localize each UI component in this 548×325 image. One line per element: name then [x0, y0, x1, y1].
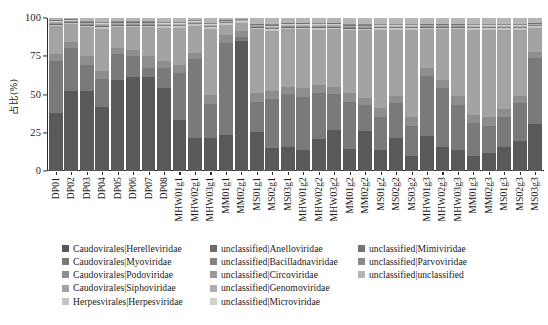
x-axis-label-slot: MM02g3 [482, 172, 496, 238]
x-axis-tick-mark [226, 172, 227, 175]
bar-segment [126, 27, 140, 50]
bar-segment [49, 54, 63, 62]
stacked-bar[interactable] [111, 18, 125, 171]
y-axis-ticks: 0255075100 [0, 18, 47, 171]
stacked-bar[interactable] [327, 18, 341, 171]
stacked-bar[interactable] [343, 18, 357, 171]
bar-segment [451, 29, 465, 95]
legend-item[interactable]: Herpesvirales|Herpesviridae [62, 295, 210, 308]
legend-swatch-icon [358, 258, 365, 265]
legend-swatch-icon [62, 271, 69, 278]
x-axis-label-slot: DP07 [142, 172, 156, 238]
legend-label: unclassified|unclassified [369, 270, 464, 280]
stacked-bar[interactable] [389, 18, 403, 171]
legend-item[interactable]: Caudovirales|Myoviridae [62, 255, 210, 268]
stacked-bar[interactable] [405, 18, 419, 171]
x-axis-label-slot: MS03g3 [528, 172, 542, 238]
stacked-bar[interactable] [188, 18, 202, 171]
x-axis-label-slot: MM02g1 [235, 172, 249, 238]
bar-segment [157, 61, 171, 69]
stacked-bar[interactable] [528, 18, 542, 171]
bar-segment [482, 126, 496, 153]
stacked-bar[interactable] [49, 18, 63, 171]
bar-segment [95, 29, 109, 71]
x-axis-tick-mark [381, 172, 382, 175]
legend-label: unclassified|Parvoviridae [369, 257, 467, 267]
bar-segment [405, 117, 419, 126]
x-axis-label-slot: MS03g1 [281, 172, 295, 238]
x-axis-tick-mark [442, 172, 443, 175]
legend-item[interactable]: unclassified|Bacilladnaviridae [210, 255, 358, 268]
x-axis-tick-mark [334, 172, 335, 175]
stacked-bar[interactable] [467, 18, 481, 171]
y-axis-tick-label: 75 [30, 51, 41, 62]
bar-segment [312, 30, 326, 86]
bar-segment [312, 139, 326, 171]
bar-segment [497, 30, 511, 110]
bar-segment [420, 76, 434, 136]
stacked-bar[interactable] [497, 18, 511, 171]
stacked-bar[interactable] [80, 18, 94, 171]
stacked-bar[interactable] [204, 18, 218, 171]
stacked-bar[interactable] [95, 18, 109, 171]
stacked-bar[interactable] [374, 18, 388, 171]
legend-item[interactable]: unclassified|Mimiviridae [358, 242, 518, 255]
stacked-bar[interactable] [126, 18, 140, 171]
stacked-bar[interactable] [296, 18, 310, 171]
x-axis-label-slot: MS01g1 [250, 172, 264, 238]
x-axis-label-slot: DP01 [49, 172, 63, 238]
x-axis-tick-mark [195, 172, 196, 175]
bar-segment [451, 150, 465, 171]
legend-item[interactable]: unclassified|Microviridae [210, 295, 358, 308]
legend-item[interactable]: Caudovirales|Podoviridae [62, 268, 210, 281]
stacked-bar[interactable] [173, 18, 187, 171]
bar-segment [204, 104, 218, 137]
x-axis-tick-label: MM01g3 [469, 177, 479, 214]
legend-swatch-icon [210, 258, 217, 265]
bar-segment [436, 29, 450, 80]
x-axis-tick-label: MM02g1 [237, 177, 247, 214]
stacked-bar[interactable] [312, 18, 326, 171]
stacked-bar[interactable] [451, 18, 465, 171]
x-axis-tick-label: MHW01g1 [175, 177, 185, 221]
bar-segment [142, 27, 156, 56]
x-axis-tick-label: MHW01g2 [298, 177, 308, 221]
stacked-bar[interactable] [235, 18, 249, 171]
x-axis-tick-mark [489, 172, 490, 175]
legend-item[interactable]: unclassified|Circoviridae [210, 268, 358, 281]
legend-label: Caudovirales|Siphoviridae [73, 283, 176, 293]
x-axis-tick-label: DP05 [113, 177, 123, 199]
stacked-bar[interactable] [358, 18, 372, 171]
stacked-bar[interactable] [265, 18, 279, 171]
bar-segment [374, 117, 388, 150]
bar-segment [389, 103, 403, 138]
stacked-bar[interactable] [482, 18, 496, 171]
stacked-bar[interactable] [420, 18, 434, 171]
x-axis-label-slot: DP05 [111, 172, 125, 238]
bar-segment [374, 108, 388, 117]
legend-item[interactable]: Caudovirales|Herelleviridae [62, 242, 210, 255]
legend-item[interactable]: unclassified|Parvoviridae [358, 255, 518, 268]
stacked-bar[interactable] [513, 18, 527, 171]
x-axis-label-slot: MHW02g1 [188, 172, 202, 238]
legend-item[interactable]: Caudovirales|Siphoviridae [62, 282, 210, 295]
stacked-bar[interactable] [142, 18, 156, 171]
x-axis-tick-mark [102, 172, 103, 175]
stacked-bar[interactable] [250, 18, 264, 171]
stacked-bar[interactable] [281, 18, 295, 171]
bar-segment [219, 43, 233, 135]
bar-segment [281, 147, 295, 171]
stacked-bar[interactable] [64, 18, 78, 171]
legend-item[interactable]: unclassified|Anelloviridae [210, 242, 358, 255]
stacked-bar[interactable] [436, 18, 450, 171]
bar-segment [374, 150, 388, 171]
legend-swatch-icon [62, 245, 69, 252]
stacked-bar[interactable] [157, 18, 171, 171]
bar-segment [250, 93, 264, 102]
legend-swatch-icon [358, 271, 365, 278]
legend-item[interactable]: unclassified|unclassified [358, 268, 518, 281]
x-axis-label-slot: DP04 [95, 172, 109, 238]
stacked-bar[interactable] [219, 18, 233, 171]
legend-item[interactable]: unclassified|Genomoviridae [210, 282, 358, 295]
x-axis-label-slot: MS02g3 [513, 172, 527, 238]
